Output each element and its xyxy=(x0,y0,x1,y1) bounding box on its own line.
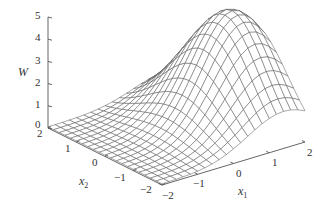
x1-tick-neg2: −2 xyxy=(162,190,174,201)
x2-tick-2: 2 xyxy=(37,128,43,139)
x2-tick-neg2: −2 xyxy=(140,184,152,195)
x1-axis-label: x1 xyxy=(238,185,247,200)
x2-axis-label: x2 xyxy=(79,175,88,190)
x1-tick-2: 2 xyxy=(307,147,313,158)
z-tick-5: 5 xyxy=(35,10,41,21)
x2-tick-0: 0 xyxy=(92,157,98,168)
surface-plot xyxy=(0,0,329,206)
z-tick-3: 3 xyxy=(35,55,41,66)
x1-tick-0: 0 xyxy=(236,168,242,179)
z-axis-label: W xyxy=(18,66,28,78)
x2-tick-neg1: −1 xyxy=(114,172,126,183)
z-tick-1: 1 xyxy=(35,99,41,110)
x1-tick-neg1: −1 xyxy=(193,178,205,189)
x2-tick-1: 1 xyxy=(65,143,71,154)
surface-mesh xyxy=(48,9,305,183)
z-tick-2: 2 xyxy=(35,77,41,88)
x1-tick-1: 1 xyxy=(272,157,278,168)
z-tick-4: 4 xyxy=(35,32,41,43)
